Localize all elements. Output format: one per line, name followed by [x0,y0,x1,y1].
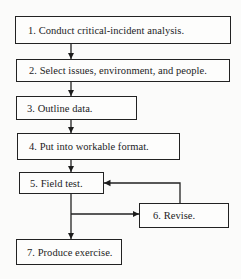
step-1-box: 1. Conduct critical-incident analysis. [15,16,231,44]
step-7-box: 7. Produce exercise. [16,239,122,265]
arrow-6-feedback-to-5 [104,183,180,203]
step-5-label: 5. Field test. [30,178,83,189]
step-4-box: 4. Put into workable format. [17,133,180,160]
step-6-label: 6. Revise. [153,210,195,221]
step-2-label: 2. Select issues, environment, and peopl… [29,65,207,76]
step-4-label: 4. Put into workable format. [29,141,149,152]
step-5-box: 5. Field test. [19,172,104,194]
step-7-label: 7. Produce exercise. [27,247,113,258]
step-3-box: 3. Outline data. [16,96,137,120]
step-3-label: 3. Outline data. [27,103,93,114]
step-1-label: 1. Conduct critical-incident analysis. [28,25,184,36]
process-flowchart: 1. Conduct critical-incident analysis. 2… [0,0,241,279]
step-2-box: 2. Select issues, environment, and peopl… [16,59,230,82]
step-6-box: 6. Revise. [139,203,229,228]
